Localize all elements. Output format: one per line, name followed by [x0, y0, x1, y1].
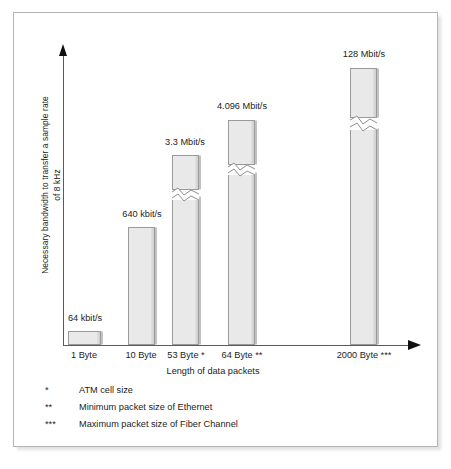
footnote-marker: * — [45, 385, 79, 395]
bar-64-byte-upper — [228, 120, 255, 165]
footnote-marker: *** — [45, 419, 79, 429]
x-tick-label-4: 64 Byte ** — [206, 350, 278, 360]
footnote-text: Minimum packet size of Ethernet — [79, 402, 212, 412]
bar-2000-byte-lower — [350, 128, 377, 345]
bar-value-label-2: 640 kbit/s — [101, 209, 183, 219]
footnote-text: ATM cell size — [79, 385, 133, 395]
figure-root: Necessary bandwidth to transfer a sample… — [0, 0, 451, 469]
y-axis-line — [63, 52, 64, 346]
bar-53-byte-lower — [172, 196, 199, 345]
bar-1-byte — [68, 331, 101, 345]
bar-2000-byte-upper — [350, 68, 377, 118]
plot-area: Necessary bandwidth to transfer a sample… — [0, 0, 451, 469]
x-axis-title: Length of data packets — [63, 366, 363, 376]
x-tick-label-5: 2000 Byte *** — [319, 350, 409, 360]
bar-53-byte-upper — [172, 155, 199, 190]
footnote-item: *** Maximum packet size of Fiber Channel — [45, 419, 405, 436]
bar-10-byte — [128, 227, 155, 345]
bar-64-byte-lower — [228, 172, 255, 345]
y-axis-arrow-icon — [59, 44, 67, 56]
bar-value-label-4: 4.096 Mbit/s — [198, 101, 286, 111]
footnote-marker: ** — [45, 402, 79, 412]
x-axis-arrow-icon — [408, 340, 421, 350]
footnote-list: * ATM cell size ** Minimum packet size o… — [45, 385, 405, 436]
footnote-item: * ATM cell size — [45, 385, 405, 402]
footnote-text: Maximum packet size of Fiber Channel — [79, 419, 238, 429]
y-axis-title: Necessary bandwidth to transfer a sample… — [40, 60, 63, 310]
bar-value-label-1: 64 kbit/s — [44, 313, 126, 323]
bar-value-label-3: 3.3 Mbit/s — [144, 137, 226, 147]
footnote-item: ** Minimum packet size of Ethernet — [45, 402, 405, 419]
x-axis-line — [63, 345, 410, 346]
bar-value-label-5: 128 Mbit/s — [322, 49, 406, 59]
